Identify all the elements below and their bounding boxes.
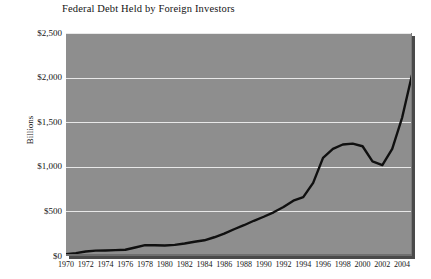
- series-federal-debt-foreign-investors: [66, 75, 412, 254]
- x-axis-tick-label: 1996: [315, 260, 331, 270]
- chart-title: Federal Debt Held by Foreign Investors: [62, 3, 235, 14]
- x-axis-tick-label: 1994: [295, 260, 311, 270]
- y-axis-tick-label: $500: [2, 207, 62, 216]
- x-axis-tick-label: 1988: [236, 260, 252, 270]
- x-axis-tick-label: 1972: [78, 260, 94, 270]
- y-axis-tick-label: $0: [2, 252, 62, 261]
- x-axis-tick-label: 1982: [177, 260, 193, 270]
- data-line-layer: [66, 33, 412, 256]
- x-axis-tick-label: 1986: [216, 260, 232, 270]
- x-axis-tick-label: 1990: [256, 260, 272, 270]
- x-axis-tick-label: 2002: [374, 260, 390, 270]
- x-axis-tick-label: 1974: [98, 260, 114, 270]
- x-axis-tick-label: 2004: [394, 260, 410, 270]
- y-axis-tick-label: $2,000: [2, 73, 62, 82]
- x-axis-tick-label: 1978: [137, 260, 153, 270]
- plot-area: [66, 33, 412, 256]
- y-axis-tick-labels: $0$500$1,000$1,500$2,000$2,500: [0, 33, 62, 256]
- x-axis-tick-label: 1998: [335, 260, 351, 270]
- x-axis-tick-label: 1970: [58, 260, 74, 270]
- x-axis-tick-label: 1976: [117, 260, 133, 270]
- y-axis-tick-label: $1,500: [2, 118, 62, 127]
- x-axis-line: [66, 254, 412, 256]
- x-axis-tick-label: 1980: [157, 260, 173, 270]
- chart-figure: Federal Debt Held by Foreign Investors B…: [0, 0, 431, 279]
- x-axis-tick-label: 1984: [196, 260, 212, 270]
- plot-right-edge: [411, 33, 412, 256]
- y-axis-tick-label: $1,000: [2, 162, 62, 171]
- x-axis-tick-labels: 1970197219741976197819801982198419861988…: [66, 260, 412, 274]
- y-axis-tick-label: $2,500: [2, 29, 62, 38]
- x-axis-tick-label: 2000: [355, 260, 371, 270]
- x-axis-tick-label: 1992: [275, 260, 291, 270]
